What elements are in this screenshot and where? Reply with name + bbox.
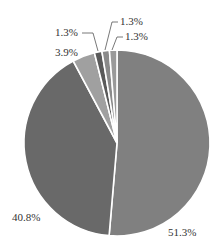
slice-label: 3.9% xyxy=(55,46,78,58)
leader-line xyxy=(112,37,123,50)
slice-label: 1.3% xyxy=(120,15,143,27)
leader-lines xyxy=(82,22,123,51)
slice-label: 1.3% xyxy=(55,26,78,38)
pie-chart: 51.3%40.8%3.9%1.3%1.3%1.3% xyxy=(0,0,220,249)
pie-slice xyxy=(109,50,210,236)
pie-slices xyxy=(24,50,210,236)
leader-line xyxy=(105,22,118,50)
leader-line xyxy=(82,33,98,51)
slice-label: 1.3% xyxy=(125,30,148,42)
slice-label: 40.8% xyxy=(12,211,40,223)
slice-label: 51.3% xyxy=(168,226,196,238)
